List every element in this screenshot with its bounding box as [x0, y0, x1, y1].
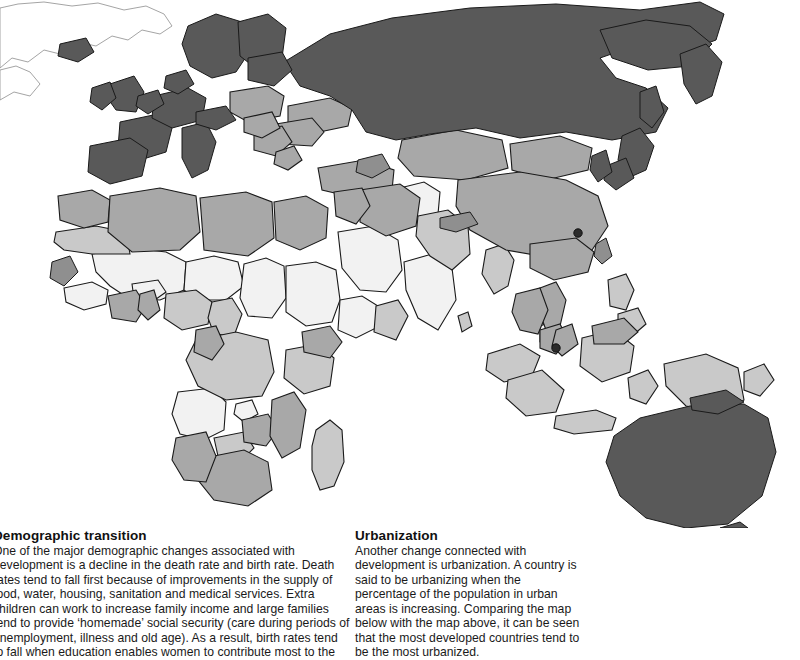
singapore-marker	[552, 344, 560, 352]
caption-area: Demographic transition One of the major …	[0, 528, 800, 653]
hong-kong-marker	[574, 229, 582, 237]
demographic-transition-body: One of the major demographic changes ass…	[0, 544, 352, 660]
kazakhstan-region	[398, 130, 508, 180]
demographic-transition-title: Demographic transition	[0, 528, 352, 543]
sudan-region	[286, 262, 340, 326]
demographic-transition-block: Demographic transition One of the major …	[0, 528, 352, 660]
algeria-region	[108, 188, 200, 252]
urbanization-title: Urbanization	[355, 528, 655, 543]
spain-portugal-region	[88, 138, 148, 184]
world-map-svg	[0, 0, 800, 528]
urbanization-block: Urbanization Another change connected wi…	[355, 528, 655, 660]
world-map-figure	[0, 0, 800, 528]
urbanization-body: Another change connected with developmen…	[355, 544, 655, 660]
morocco-region	[58, 190, 110, 228]
